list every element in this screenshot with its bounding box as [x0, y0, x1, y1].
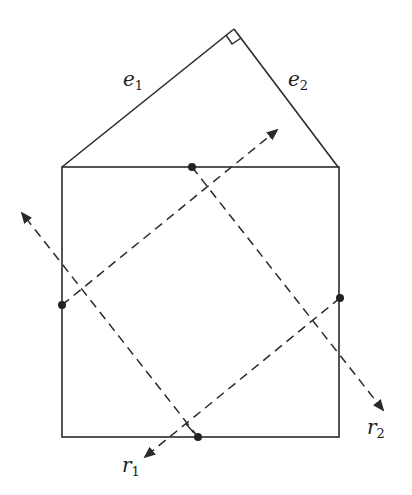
point-top — [188, 163, 196, 171]
right-triangle — [62, 29, 338, 167]
point-left — [58, 301, 66, 309]
label-e1: e1 — [123, 67, 143, 93]
label-e2: e2 — [288, 67, 308, 93]
ray-upper-right — [62, 130, 277, 305]
point-right — [336, 294, 344, 302]
edge-e2 — [234, 29, 338, 167]
ray-r1 — [145, 298, 340, 457]
point-bottom — [194, 433, 202, 441]
label-r1: r1 — [122, 453, 140, 479]
edge-e1 — [62, 29, 234, 167]
ray-upper-left — [22, 213, 198, 437]
ray-r2 — [192, 167, 383, 410]
label-r2: r2 — [367, 415, 385, 441]
diagram-canvas: e1 e2 r1 r2 — [0, 0, 412, 495]
tick-mark — [186, 424, 194, 433]
